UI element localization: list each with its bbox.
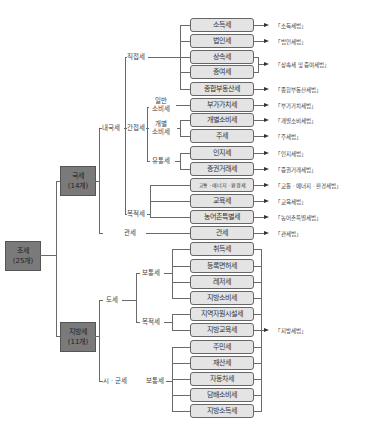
law-securities-transaction-tax: 「증권거래세법」 bbox=[275, 166, 317, 174]
connector bbox=[261, 249, 262, 412]
circulation-tax-label: 유통세 bbox=[152, 157, 170, 165]
local-tax-name: 지방세 bbox=[61, 327, 95, 337]
law-inheritance-gift-tax: 「상속세 및 증여세법」 bbox=[275, 61, 331, 69]
direct-tax-label: 직접세 bbox=[127, 53, 145, 61]
connector bbox=[172, 395, 190, 396]
tax-box-rural-special: 농어촌특별세 bbox=[190, 210, 254, 224]
connector bbox=[172, 282, 190, 283]
law-vat: 「부가가치세법」 bbox=[275, 102, 317, 110]
connector bbox=[150, 201, 190, 202]
tax-box-property: 재산세 bbox=[190, 356, 254, 370]
connector bbox=[180, 136, 190, 137]
connector bbox=[136, 273, 140, 274]
arrow-icon bbox=[264, 167, 269, 171]
connector bbox=[146, 233, 190, 234]
national-tax-name: 국세 bbox=[61, 171, 95, 181]
connector bbox=[180, 72, 190, 73]
law-education-tax: 「교육세법」 bbox=[275, 198, 307, 206]
law-comprehensive-real-estate-tax: 「종합부동산세법」 bbox=[275, 86, 322, 94]
connector bbox=[258, 57, 259, 73]
local-tax-count: (11개) bbox=[61, 337, 95, 347]
province-ordinary-tax-label: 보통세 bbox=[142, 269, 160, 277]
indirect-tax-label: 간접세 bbox=[127, 124, 145, 132]
tax-box-education: 교육세 bbox=[190, 194, 254, 208]
connector bbox=[253, 169, 264, 170]
connector bbox=[180, 41, 190, 42]
law-transport-energy-env-tax: 「교통 · 에너지 · 환경세법」 bbox=[275, 182, 343, 190]
tax-box-transport-energy-env: 교통 · 에너지 · 환경세 bbox=[190, 178, 254, 192]
law-local-tax: 「지방세법」 bbox=[275, 327, 307, 335]
connector bbox=[180, 169, 190, 170]
connector bbox=[147, 128, 149, 129]
connector bbox=[172, 249, 190, 250]
arrow-icon bbox=[264, 62, 269, 66]
connector bbox=[253, 282, 261, 283]
connector bbox=[253, 217, 264, 218]
arrow-icon bbox=[264, 231, 269, 235]
national-tax-box: 국세 (14개) bbox=[60, 166, 96, 196]
connector bbox=[147, 161, 150, 162]
root-tax-name: 조세 bbox=[6, 246, 40, 256]
connector bbox=[253, 89, 264, 90]
connector bbox=[253, 379, 261, 380]
tax-box-liquor: 주세 bbox=[190, 129, 254, 143]
connector bbox=[253, 347, 261, 348]
purpose-tax-label: 목적세 bbox=[127, 210, 145, 218]
connector bbox=[253, 120, 264, 121]
special-consumption-label: 개별 소비세 bbox=[152, 120, 170, 136]
connector bbox=[125, 57, 126, 214]
connector bbox=[253, 185, 264, 186]
law-income-tax: 「소득세법」 bbox=[275, 22, 307, 30]
tax-box-customs: 관세 bbox=[190, 226, 254, 240]
connector bbox=[253, 105, 264, 106]
tax-box-local-consumption: 지방소비세 bbox=[190, 291, 254, 305]
law-liquor-tax: 「주세법」 bbox=[275, 133, 302, 141]
connector bbox=[172, 298, 190, 299]
connector bbox=[164, 322, 172, 323]
connector bbox=[150, 217, 190, 218]
connector bbox=[253, 41, 264, 42]
connector bbox=[136, 273, 137, 323]
arrow-icon bbox=[264, 87, 269, 91]
arrow-icon bbox=[264, 183, 269, 187]
law-stamp-tax: 「인지세법」 bbox=[275, 150, 307, 158]
connector bbox=[148, 57, 180, 58]
connector bbox=[56, 336, 60, 337]
root-tax-count: (25개) bbox=[6, 256, 40, 266]
tax-box-stamp: 인지세 bbox=[190, 146, 254, 160]
connector bbox=[172, 363, 190, 364]
internal-tax-label: 내국세 bbox=[102, 124, 120, 132]
connector bbox=[253, 330, 264, 331]
tax-box-special-consumption: 개별소비세 bbox=[190, 113, 254, 127]
law-rural-special-tax: 「농어촌특별세법」 bbox=[275, 214, 322, 222]
root-tax-box: 조세 (25개) bbox=[5, 241, 41, 271]
tax-box-income: 소득세 bbox=[190, 18, 254, 32]
connector bbox=[172, 330, 190, 331]
connector bbox=[253, 233, 264, 234]
connector bbox=[56, 181, 60, 182]
tax-box-local-education: 지방교육세 bbox=[190, 323, 254, 337]
tax-box-local-income: 지방소득세 bbox=[190, 404, 254, 418]
connector bbox=[56, 181, 57, 337]
connector bbox=[253, 201, 264, 202]
tax-box-securities-transaction: 증권거래세 bbox=[190, 162, 254, 176]
connector bbox=[253, 25, 264, 26]
city-ordinary-tax-label: 보통세 bbox=[146, 377, 164, 385]
tax-box-inheritance: 상속세 bbox=[190, 50, 254, 64]
connector bbox=[99, 300, 103, 301]
arrow-icon bbox=[264, 118, 269, 122]
law-special-consumption-tax: 「개별소비세법」 bbox=[275, 117, 317, 125]
tax-box-leisure: 레저세 bbox=[190, 275, 254, 289]
connector bbox=[172, 347, 190, 348]
tax-box-registration-license: 등록면허세 bbox=[190, 259, 254, 273]
tax-box-acquisition: 취득세 bbox=[190, 242, 254, 256]
connector bbox=[253, 363, 261, 364]
law-corporate-tax: 「법인세법」 bbox=[275, 38, 307, 46]
connector bbox=[99, 300, 100, 382]
connector bbox=[122, 300, 136, 301]
connector bbox=[253, 314, 261, 315]
customs-label: 관세 bbox=[124, 229, 136, 237]
connector bbox=[253, 136, 264, 137]
arrow-icon bbox=[264, 39, 269, 43]
connector bbox=[99, 128, 100, 233]
